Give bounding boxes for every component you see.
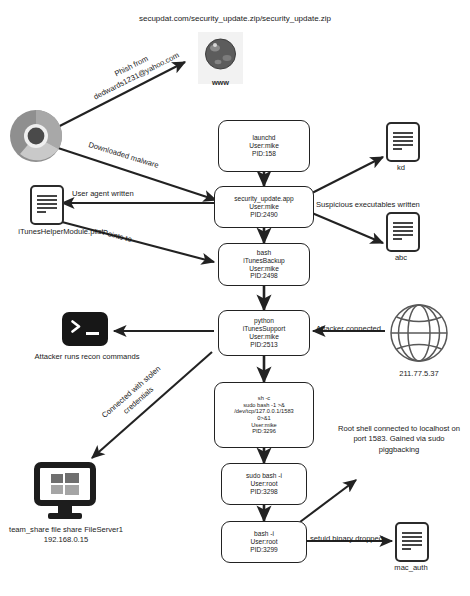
process-line: User:mike: [249, 203, 279, 211]
terminal-icon: [62, 312, 108, 346]
file-label-kd: kd: [371, 163, 431, 173]
file-label-mac-auth: mac_auth: [380, 563, 442, 573]
process-line: PID:3298: [250, 488, 278, 496]
process-line: User:mike: [249, 142, 279, 150]
process-line: PID:3299: [250, 546, 278, 554]
process-node-python-itunessupport: python iTunesSupport User:mike PID:2513: [218, 310, 310, 356]
attack-chain-diagram: secupdat.com/security_update.zip/securit…: [0, 0, 470, 596]
www-globe-icon: www: [198, 32, 243, 87]
process-line: PID:3296: [252, 428, 276, 435]
process-line: bash -i: [254, 530, 274, 538]
edge-root-shell-note: [300, 480, 356, 522]
file-label-abc: abc: [371, 253, 431, 263]
process-line: PID:2490: [250, 211, 278, 219]
file-icon-plist: [30, 185, 64, 225]
recon-annotation: Attacker runs recon commands: [2, 352, 172, 362]
process-line: PID:158: [252, 150, 276, 158]
root-shell-annotation: Root shell connected to localhost on por…: [336, 424, 462, 455]
file-icon-mac-auth: [395, 522, 429, 562]
edge-label-downloaded-malware: Downloaded malware: [87, 140, 159, 170]
process-node-sh-c: sh -c sudo bash -1 >& /dev/tcp/127.0.0.1…: [214, 382, 314, 448]
edge-label-setuid-dropped: setuid binary dropped: [310, 534, 383, 543]
process-line: User:root: [250, 538, 277, 546]
process-line: launchd: [252, 134, 275, 142]
process-line: User:root: [250, 480, 277, 488]
process-line: sudo bash -i: [246, 472, 282, 480]
process-node-bash-i: bash -i User:root PID:3299: [221, 521, 307, 563]
edge-label-phish: Phish from dedwards1231@yahoo.com: [61, 27, 207, 116]
process-line: 0>&1: [257, 415, 270, 422]
process-node-bash-itunesbackup: bash iTunesBackup User:mike PID:2498: [218, 243, 310, 286]
page-title: secupdat.com/security_update.zip/securit…: [0, 14, 470, 23]
file-icon-abc: [386, 212, 420, 252]
globe-ip-label: 211.77.5.37: [379, 369, 459, 379]
process-line: iTunesBackup: [243, 257, 285, 265]
fileserver-annotation: team_share file share FileServer1 192.16…: [0, 525, 132, 546]
windows-monitor-icon: [34, 462, 96, 520]
process-line: sudo bash -1 >&: [243, 402, 285, 409]
edge-app-to-abc: [312, 213, 383, 243]
watermark: [6, 578, 7, 584]
file-icon-kd: [386, 122, 420, 162]
process-line: iTunesSupport: [243, 325, 286, 333]
process-line: PID:2513: [250, 341, 278, 349]
edge-label-attacker-connected: Attacker connected: [316, 324, 381, 333]
edge-label-user-agent-written: User agent written: [72, 189, 134, 198]
process-line: User:mike: [249, 265, 279, 273]
process-line: User:mike: [251, 422, 277, 429]
process-line: bash: [257, 249, 271, 257]
process-node-sudo-bash-i: sudo bash -i User:root PID:3298: [221, 463, 307, 505]
process-line: python: [254, 317, 274, 325]
process-line: /dev/tcp/127.0.0.1/1583: [234, 408, 293, 415]
globe-icon: [388, 302, 450, 368]
process-line: User:mike: [249, 333, 279, 341]
edge-label-suspicious-executables: Suspicious executables written: [316, 200, 420, 209]
process-node-security-update-app: security_update.app User:mike PID:2490: [214, 186, 314, 228]
process-node-launchd: launchd User:mike PID:158: [218, 120, 310, 172]
process-line: sh -c: [258, 395, 270, 402]
edge-label-points-to: Points to: [102, 228, 133, 244]
process-line: security_update.app: [234, 195, 293, 203]
chrome-browser-icon: [8, 108, 64, 168]
process-line: PID:2498: [250, 272, 278, 280]
